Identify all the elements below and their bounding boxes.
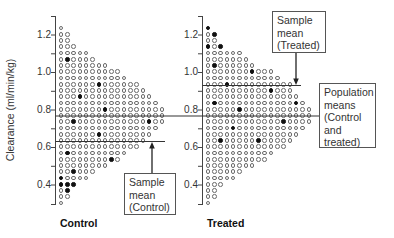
tick-label: 1.0 — [29, 66, 51, 78]
tick-label: 1.2 — [176, 29, 198, 41]
tick-label: 0.6 — [29, 141, 51, 153]
tick-label: 0.8 — [176, 104, 198, 116]
tick-label: 0.8 — [29, 104, 51, 116]
treated-panel-label: Treated — [207, 217, 244, 229]
callout-line: (Control) — [129, 201, 175, 214]
callout-line: Population — [324, 86, 375, 99]
callout-line: means — [324, 99, 375, 112]
callout-line: and — [324, 124, 375, 137]
tick-label: 0.4 — [29, 179, 51, 191]
callout-line: (Treated) — [277, 39, 325, 52]
control-panel-label: Control — [60, 217, 97, 229]
control-sample-mean-callout: Sample mean (Control) — [124, 173, 176, 215]
callout-line: (Control — [324, 111, 375, 124]
arrow-down-icon — [293, 79, 299, 86]
y-axis-label: Clearance (ml/min/kg) — [3, 45, 17, 175]
treated-sample-mean-callout: Sample mean (Treated) — [272, 11, 326, 53]
tick-label: 0.4 — [176, 179, 198, 191]
arrow-up-icon — [149, 142, 155, 149]
callout-line: Sample — [129, 176, 175, 189]
tick-label: 1.0 — [176, 66, 198, 78]
callout-line: treated) — [324, 136, 375, 149]
dot-plot-figure: Clearance (ml/min/kg) 1.2 1.0 0.8 0.6 0.… — [0, 0, 394, 238]
population-means-callout: Population means (Control and treated) — [319, 83, 376, 148]
callout-line: mean — [129, 189, 175, 202]
callout-line: Sample — [277, 14, 325, 27]
tick-label: 1.2 — [29, 29, 51, 41]
tick-label: 0.6 — [176, 141, 198, 153]
callout-line: mean — [277, 27, 325, 40]
